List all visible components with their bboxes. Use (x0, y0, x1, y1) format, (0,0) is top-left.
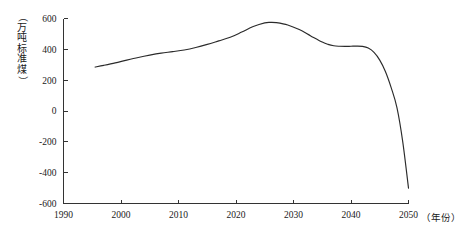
x-tick-label: 2010 (169, 210, 188, 220)
x-tick-label: 2020 (227, 210, 246, 220)
y-tick-label: 600 (42, 14, 57, 24)
x-tick-label: 2050 (399, 210, 418, 220)
x-tick-label: 2030 (284, 210, 303, 220)
y-tick-label: 0 (52, 106, 57, 116)
chart-container: -600-400-2000200400600199020002010202020… (0, 0, 472, 230)
x-axis-title: （年份） (421, 210, 461, 224)
y-axis-title: （万吨标准煤） (14, 12, 29, 86)
y-tick-label: -600 (39, 199, 57, 209)
y-tick-label: -400 (39, 168, 57, 178)
line-chart-canvas: -600-400-2000200400600199020002010202020… (0, 0, 472, 230)
x-tick-label: 1990 (54, 210, 73, 220)
data-series-group (95, 22, 408, 188)
y-axis-title-char: ） (16, 73, 27, 88)
y-axis-title-char: （ (16, 10, 27, 25)
data-line-series (95, 22, 408, 188)
y-tick-label: 400 (42, 45, 57, 55)
x-tick-label: 2000 (112, 210, 131, 220)
y-tick-label: -200 (39, 137, 57, 147)
tick-labels-group: -600-400-2000200400600199020002010202020… (39, 14, 418, 220)
x-tick-label: 2040 (342, 210, 361, 220)
y-tick-label: 200 (42, 76, 57, 86)
